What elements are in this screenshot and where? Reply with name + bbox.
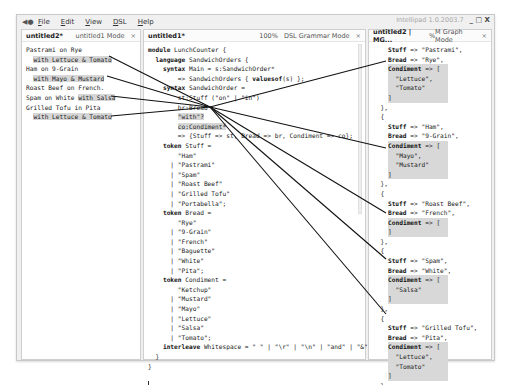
condiment-block: Condiment => [ "Salsa"]: [373, 275, 477, 304]
field-key: Bread: [388, 209, 407, 216]
field-key: Condiment: [388, 343, 422, 350]
grammar-line: token Condiment =: [148, 275, 375, 285]
menu-help[interactable]: Help: [138, 18, 154, 26]
tab-untitled1[interactable]: untitled1*: [148, 32, 185, 40]
field-key: Condiment: [388, 65, 422, 72]
mode-label: DSL Grammar Mode: [284, 32, 350, 40]
condiment-value: "Salsa": [388, 285, 448, 295]
condiment-key: Condiment => [: [388, 275, 448, 285]
menu-label: ile: [42, 18, 50, 26]
condiment-match: with Lettuce & Tomato: [33, 56, 111, 63]
condiment-match: with Mayo & Mustard: [33, 75, 104, 82]
condiment-close: ]: [388, 294, 448, 304]
stuff-field: Stuff => "Spam",: [373, 256, 477, 266]
grammar-line: interleave Whitespace = " " | "\r" | "\n…: [148, 342, 375, 352]
zoom-level: 100%: [259, 32, 278, 40]
stuff-field: Stuff => "Ham",: [373, 122, 477, 132]
input-line: Spam on White with Salsa: [26, 93, 115, 103]
bread-field: Bread => "Pita",: [373, 333, 477, 343]
condiment-value: "Mustard": [388, 160, 448, 170]
input-line: with Lettuce & Tomato: [26, 55, 115, 65]
field-key: Stuff: [388, 257, 407, 264]
grammar-line: | "Spam": [148, 170, 375, 180]
grammar-line: st:Stuff ("on" | "in"): [148, 93, 375, 103]
condiment-close: ]: [388, 371, 448, 381]
condiment-highlight: Condiment => [ "Salsa"]: [388, 275, 448, 304]
input-editor[interactable]: Pastrami on Rye with Lettuce & TomatoHam…: [26, 45, 115, 122]
record-close: },: [373, 179, 477, 189]
input-line: Ham on 9-Grain: [26, 64, 115, 74]
menu-label: dit: [65, 18, 74, 26]
record-open: {: [373, 246, 477, 256]
condiment-value: "Lettuce",: [388, 352, 448, 362]
grammar-line: => SandwichOrders { valuesof(s) };: [148, 74, 375, 84]
keyword: syntax: [163, 84, 185, 91]
condiment-block: Condiment => [ "Lettuce", "Tomato"]: [373, 64, 477, 102]
grammar-line: co:Condiment*: [148, 122, 375, 132]
input-panel: untitled2* untitled1 Mode × Pastrami on …: [21, 29, 141, 360]
keyword: module: [148, 46, 170, 53]
keyword: valuesof: [252, 75, 282, 82]
condiment-block: Condiment => [ "Lettuce", "Tomato"]: [373, 342, 477, 380]
input-panel-header: untitled2* untitled1 Mode ×: [22, 30, 140, 42]
grammar-line: token Bread =: [148, 208, 375, 218]
close-icon[interactable]: ×: [482, 32, 487, 40]
intellipad-window: ◀● FileEditViewDSLHelp Intellipad 1.0.20…: [16, 14, 495, 361]
grammar-line: | "Lettuce": [148, 314, 375, 324]
field-key: Condiment: [388, 219, 422, 226]
record-close: },: [373, 103, 477, 113]
grammar-line: br:Bread: [148, 103, 375, 113]
menu-dsl[interactable]: DSL: [113, 18, 127, 26]
grammar-line: token Stuff =: [148, 141, 375, 151]
field-key: Condiment: [388, 276, 422, 283]
keyword: language: [155, 56, 185, 63]
input-line: with Lettuce & Tomato: [26, 112, 115, 122]
grammar-line: | "Pastrami": [148, 160, 375, 170]
close-icon[interactable]: ×: [131, 32, 136, 40]
input-line: Grilled Tofu in Pita: [26, 103, 115, 113]
field-key: Condiment: [388, 142, 422, 149]
condiment-key: Condiment => [: [388, 342, 448, 352]
condiment-value: "Mayo",: [388, 151, 448, 161]
field-key: Bread: [388, 132, 407, 139]
condiment-match: with Lettuce & Tomato: [33, 113, 111, 120]
condiment-key: Condiment => [: [388, 64, 448, 74]
grammar-line: | "French": [148, 237, 375, 247]
condiment-highlight: Condiment => []: [388, 218, 448, 237]
grammar-editor[interactable]: module LunchCounter { language SandwichO…: [148, 45, 375, 385]
tab-untitled2-mgraph[interactable]: untitled2 | MG...: [373, 28, 424, 44]
grammar-panel: untitled1* 100% DSL Grammar Mode × modul…: [143, 29, 366, 360]
condiment-key: Condiment => [: [388, 218, 448, 228]
text-caret: [148, 381, 149, 385]
condiment-highlight: Condiment => [ "Lettuce", "Tomato"]: [388, 64, 448, 102]
grammar-line: }: [148, 362, 375, 372]
keyword: token: [163, 142, 182, 149]
grammar-line: | "Baguette": [148, 246, 375, 256]
menu-view[interactable]: View: [85, 18, 102, 26]
condiment-close: ]: [388, 227, 448, 237]
vertical-scrollbar[interactable]: [358, 44, 362, 214]
input-line: Roast Beef on French.: [26, 83, 115, 93]
close-icon[interactable]: ×: [356, 32, 361, 40]
grammar-line: syntax Main = s:SandwichOrder*: [148, 64, 375, 74]
record-close: }: [373, 381, 477, 385]
window-controls[interactable]: _ □ X: [470, 16, 490, 24]
grammar-line: | "Mustard": [148, 294, 375, 304]
bread-field: Bread => "White",: [373, 266, 477, 276]
menu-file[interactable]: File: [38, 18, 50, 26]
input-line: Pastrami on Rye: [26, 45, 115, 55]
bread-field: Bread => "French",: [373, 208, 477, 218]
menu-edit[interactable]: Edit: [61, 18, 75, 26]
grammar-line: | "Portabella";: [148, 199, 375, 209]
menu-label: SL: [118, 18, 126, 26]
tab-untitled2[interactable]: untitled2*: [26, 32, 63, 40]
condiment-rule-highlight: "with"?: [178, 113, 204, 120]
grammar-line: | "Pita";: [148, 266, 375, 276]
record-close: },: [373, 304, 477, 314]
graph-output: Stuff => "Pastrami", Bread => "Rye",Cond…: [373, 45, 477, 385]
field-key: Stuff: [388, 123, 407, 130]
bread-field: Bread => "Rye",: [373, 55, 477, 65]
field-key: Bread: [388, 334, 407, 341]
condiment-rule-highlight: co:Condiment*: [178, 123, 226, 130]
record-open: {: [373, 189, 477, 199]
